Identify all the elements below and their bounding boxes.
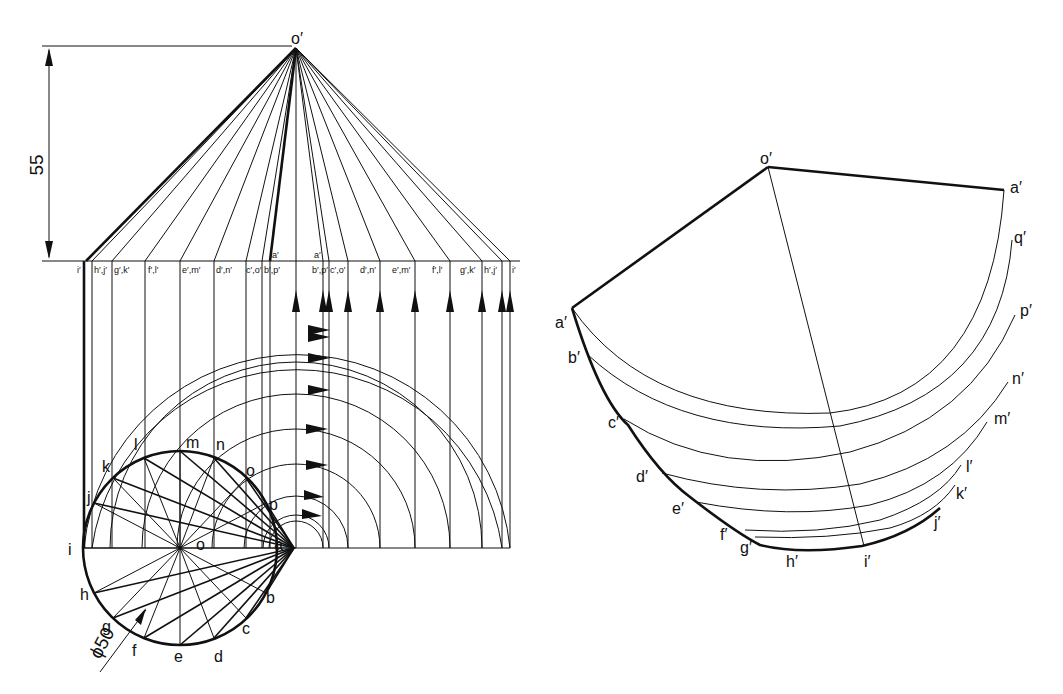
base-label: d′,n′ bbox=[216, 265, 232, 275]
dimension-label: 55 bbox=[26, 154, 47, 175]
base-label: g′,k′ bbox=[460, 265, 476, 275]
point-label: n bbox=[216, 436, 225, 453]
base-label: b′,p′ bbox=[264, 265, 280, 275]
point-label: f bbox=[132, 642, 137, 659]
base-label: i′ bbox=[77, 265, 81, 275]
base-label: c′,o′ bbox=[246, 265, 262, 275]
development-edge-right bbox=[768, 167, 1004, 190]
point-label: n′ bbox=[1012, 370, 1024, 387]
base-label: e′,m′ bbox=[182, 265, 201, 275]
center-label: o bbox=[196, 536, 205, 553]
apex-label: o′ bbox=[291, 30, 303, 47]
point-label: g′ bbox=[740, 539, 752, 556]
point-label: o bbox=[246, 462, 255, 479]
point-label: k bbox=[102, 458, 111, 475]
base-label: f′,l′ bbox=[432, 265, 443, 275]
point-label: j bbox=[86, 489, 91, 506]
point-label: d′ bbox=[636, 468, 648, 485]
point-label: a bbox=[274, 536, 283, 553]
point-label: e′ bbox=[672, 500, 684, 517]
dimension-arrow-up-icon bbox=[45, 48, 53, 66]
arc-arrow-icons bbox=[302, 325, 330, 519]
label-a-prime-left: a′ bbox=[272, 250, 279, 260]
point-label: h′ bbox=[786, 553, 798, 570]
point-label: i bbox=[68, 541, 72, 558]
point-label: q′ bbox=[1014, 229, 1026, 246]
point-label: b bbox=[266, 589, 275, 606]
base-label: e′,m′ bbox=[392, 265, 411, 275]
point-label: k′ bbox=[956, 485, 967, 502]
point-label: l bbox=[134, 436, 138, 453]
rotation-arcs bbox=[84, 355, 510, 548]
point-label: m′ bbox=[994, 410, 1010, 427]
point-label: h bbox=[80, 586, 89, 603]
front-view: 55 bbox=[26, 30, 520, 548]
label-a-prime-right: a′ bbox=[314, 250, 321, 260]
point-label: g bbox=[102, 618, 111, 635]
apex-label: o′ bbox=[760, 150, 772, 167]
base-label: h′,j′ bbox=[94, 265, 107, 275]
base-label: d′,n′ bbox=[360, 265, 376, 275]
edge-label: a′ bbox=[1010, 179, 1022, 196]
development-outline bbox=[572, 308, 940, 550]
point-label: c bbox=[242, 620, 250, 637]
point-label: l′ bbox=[966, 458, 973, 475]
drawing-canvas: 55 bbox=[0, 0, 1063, 694]
base-label: i′ bbox=[512, 265, 516, 275]
point-label: f′ bbox=[720, 526, 727, 543]
point-label: i′ bbox=[864, 553, 871, 570]
point-label: p′ bbox=[1020, 302, 1032, 319]
base-label: f′,l′ bbox=[148, 265, 159, 275]
point-label: e bbox=[174, 648, 183, 665]
point-label: b′ bbox=[568, 349, 580, 366]
development-edge-left bbox=[572, 167, 768, 308]
base-label: g′,k′ bbox=[114, 265, 130, 275]
base-label: c′,o′ bbox=[330, 265, 346, 275]
point-label: c′ bbox=[608, 414, 619, 431]
edge-label: a′ bbox=[555, 314, 567, 331]
point-label: d bbox=[214, 648, 223, 665]
base-label: h′,j′ bbox=[484, 265, 497, 275]
development-view: o′ a′ a′ b′ c′ d′ e′ f′ g′ h′ i′ q′ p′ n… bbox=[555, 150, 1032, 570]
projection-arrow-icons bbox=[292, 290, 514, 312]
point-label: m bbox=[186, 434, 199, 451]
dimension-arrow-down-icon bbox=[45, 241, 53, 259]
base-label: b′,p′ bbox=[312, 265, 328, 275]
point-label: p bbox=[269, 496, 278, 513]
generator-lines bbox=[86, 48, 510, 261]
development-arcs bbox=[572, 190, 1015, 538]
point-label: j′ bbox=[933, 514, 941, 531]
